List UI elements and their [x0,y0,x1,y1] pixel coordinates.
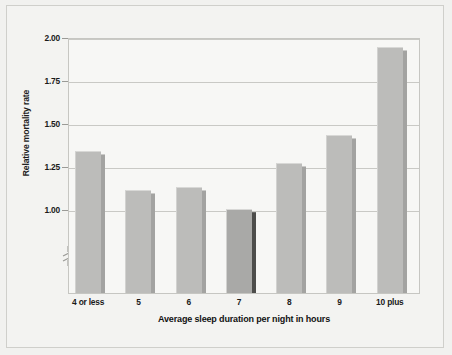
bar-side-face [403,50,407,293]
x-tick-label-4-or-less: 4 or less [72,297,104,307]
bar-side-face [352,138,356,293]
bar-8[interactable] [276,163,302,293]
bar-group [320,39,370,293]
bar-side-face [101,154,105,293]
bar-5[interactable] [125,190,151,293]
bar-group [371,39,421,293]
bar-side-face [302,166,306,293]
bar-side-face [151,193,155,293]
bar-6[interactable] [176,187,202,293]
x-tick-label-7: 7 [237,297,241,307]
x-tick-label-5: 5 [136,297,140,307]
y-tick-label-1-50: 1.50 [30,119,60,129]
y-tick-label-1-75: 1.75 [30,76,60,86]
bar-group [69,39,119,293]
x-tick-label-9: 9 [337,297,341,307]
bar-group [220,39,270,293]
y-axis-tick-labels: 2.00 1.75 1.50 1.25 1.00 [28,0,60,355]
y-tick-label-1-00: 1.00 [30,205,60,215]
y-tick-label-1-25: 1.25 [30,162,60,172]
y-tick-label-2-00: 2.00 [30,33,60,43]
x-axis-tick-labels: 4 or less5678910 plus [68,297,420,313]
bar-10-plus[interactable] [377,47,403,293]
bar-7[interactable] [226,209,252,293]
bar-series [69,39,419,293]
x-axis-title: Average sleep duration per night in hour… [68,314,420,324]
bar-group [119,39,169,293]
bar-group [270,39,320,293]
x-tick-label-8: 8 [287,297,291,307]
x-tick-label-6: 6 [186,297,190,307]
bar-side-face [252,212,256,293]
plot-area [68,38,420,294]
chart-figure: Relative mortality rate 2.00 1.75 1.50 1… [0,0,452,355]
bar-group [170,39,220,293]
bar-4-or-less[interactable] [75,151,101,293]
bar-9[interactable] [326,135,352,293]
x-tick-label-10-plus: 10 plus [376,297,403,307]
bar-side-face [202,190,206,293]
